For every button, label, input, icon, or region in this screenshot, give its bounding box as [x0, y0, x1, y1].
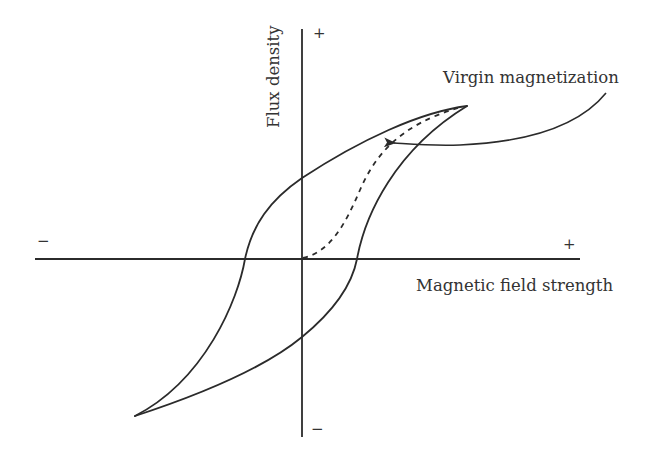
x-axis-positive-sign: + [563, 235, 576, 253]
hysteresis-diagram: + − − + Flux density Magnetic field stre… [0, 0, 660, 457]
y-axis-positive-sign: + [313, 24, 326, 42]
x-axis-negative-sign: − [37, 232, 50, 250]
loop-upper-branch [135, 106, 467, 416]
x-axis-label: Magnetic field strength [416, 276, 614, 295]
y-axis-negative-sign: − [311, 420, 324, 438]
y-axis-label: Flux density [264, 25, 283, 128]
virgin-magnetization-curve [303, 108, 458, 258]
loop-lower-branch [135, 106, 467, 416]
virgin-magnetization-label: Virgin magnetization [442, 68, 619, 87]
